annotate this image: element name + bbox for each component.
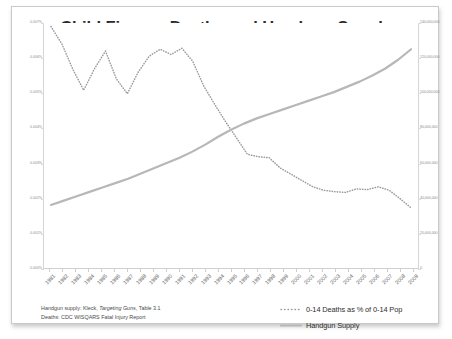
- x-axis-tick: [270, 269, 271, 272]
- left-axis-tick-label: 0.006%: [30, 56, 44, 60]
- right-axis-tick-label: 100,000,000: [418, 91, 439, 95]
- x-axis-tick: [257, 269, 258, 272]
- solid-line-icon: [280, 322, 302, 329]
- x-axis-year-label: 1983: [70, 273, 82, 285]
- x-axis-tick: [101, 269, 102, 272]
- x-axis-year-label: 1986: [109, 273, 121, 285]
- x-axis-year-label: 1993: [199, 273, 211, 285]
- x-axis-tick: [153, 269, 154, 272]
- x-axis-year-label: 1988: [135, 273, 147, 285]
- x-axis-year-label: 2005: [355, 273, 367, 285]
- source-prefix: Handgun supply: Kleck,: [41, 305, 99, 311]
- legend-item[interactable]: 0-14 Deaths as % of 0-14 Pop: [280, 302, 440, 316]
- right-axis-tick-label: 60,000,000: [418, 162, 438, 166]
- x-axis-year-label: 1987: [122, 273, 134, 285]
- x-axis-year-label: 2009: [407, 273, 419, 285]
- x-axis-tick: [127, 269, 128, 272]
- x-axis-year-label: 2008: [394, 273, 406, 285]
- legend-label: 0-14 Deaths as % of 0-14 Pop: [306, 305, 402, 314]
- x-axis-tick: [335, 269, 336, 272]
- x-axis-year-label: 2006: [368, 273, 380, 285]
- x-axis-tick: [88, 269, 89, 272]
- x-axis-tick: [348, 269, 349, 272]
- x-axis-tick: [166, 269, 167, 272]
- x-axis-tick: [296, 269, 297, 272]
- x-axis-tick: [283, 269, 284, 272]
- series-line: [51, 49, 411, 205]
- x-axis-tick: [231, 269, 232, 272]
- source-line-handgun-supply: Handgun supply: Kleck, Targeting Guns, T…: [41, 304, 161, 313]
- right-axis-tick-label: 80,000,000: [418, 127, 438, 131]
- x-axis-year-label: 1991: [173, 273, 185, 285]
- x-axis-year-label: 1985: [96, 273, 108, 285]
- source-notes: Handgun supply: Kleck, Targeting Guns, T…: [41, 304, 161, 322]
- left-axis-tick-label: 0.004%: [30, 127, 44, 131]
- x-axis-tick: [361, 269, 362, 272]
- x-axis-year-label: 2000: [290, 273, 302, 285]
- x-axis-tick: [62, 269, 63, 272]
- source-line-deaths: Deaths: CDC WISQARS Fatal Injury Report: [41, 313, 161, 322]
- left-axis-tick-label: 0.003%: [30, 162, 44, 166]
- x-axis-year-label: 1995: [225, 273, 237, 285]
- right-axis-tick-label: 20,000,000: [418, 232, 438, 236]
- x-axis-year-label: 1990: [160, 273, 172, 285]
- x-axis-tick: [244, 269, 245, 272]
- x-axis-year-label: 1999: [277, 273, 289, 285]
- x-axis-year-label: 1992: [186, 273, 198, 285]
- x-axis: 1981198219831984198519861987198819891990…: [43, 269, 419, 303]
- dotted-line-icon: [280, 306, 302, 313]
- chart-page: Child Firearm Deaths and Handgun Supply …: [0, 0, 452, 339]
- x-axis-year-label: 1994: [212, 273, 224, 285]
- right-axis-tick-label: 140,000,000: [418, 21, 439, 25]
- legend-item[interactable]: Handgun Supply: [280, 318, 440, 332]
- x-axis-year-label: 2007: [381, 273, 393, 285]
- source-suffix: , Table 3.1: [136, 305, 161, 311]
- x-axis-tick: [49, 269, 50, 272]
- left-axis-tick-label: 0.000%: [30, 267, 44, 271]
- x-axis-tick: [309, 269, 310, 272]
- x-axis-tick: [400, 269, 401, 272]
- x-axis-year-label: 2001: [303, 273, 315, 285]
- x-axis-tick: [413, 269, 414, 272]
- x-axis-year-label: 1984: [83, 273, 95, 285]
- x-axis-tick: [322, 269, 323, 272]
- x-axis-year-label: 1981: [44, 273, 56, 285]
- x-axis-tick: [192, 269, 193, 272]
- source-book-title: Targeting Guns: [99, 305, 136, 311]
- x-axis-tick: [114, 269, 115, 272]
- x-axis-year-label: 1996: [238, 273, 250, 285]
- legend-label: Handgun Supply: [306, 321, 359, 330]
- chart-legend: 0-14 Deaths as % of 0-14 PopHandgun Supp…: [280, 302, 440, 334]
- x-axis-tick: [387, 269, 388, 272]
- x-axis-tick: [179, 269, 180, 272]
- x-axis-year-label: 1997: [251, 273, 263, 285]
- right-axis-tick-label: 120,000,000: [418, 56, 439, 60]
- chart-frame: Child Firearm Deaths and Handgun Supply …: [11, 6, 439, 324]
- right-axis-tick-label: 40,000,000: [418, 197, 438, 201]
- x-axis-year-label: 2004: [342, 273, 354, 285]
- x-axis-tick: [218, 269, 219, 272]
- x-axis-year-label: 1982: [57, 273, 69, 285]
- left-axis-tick-label: 0.007%: [30, 21, 44, 25]
- left-axis-tick-label: 0.002%: [30, 197, 44, 201]
- x-axis-year-label: 2003: [329, 273, 341, 285]
- plot-area: 0.007%0.006%0.005%0.004%0.003%0.002%0.00…: [43, 23, 419, 269]
- series-line: [51, 26, 411, 207]
- series-lines: [44, 23, 418, 268]
- left-axis-tick-label: 0.001%: [30, 232, 44, 236]
- x-axis-tick: [205, 269, 206, 272]
- x-axis-year-label: 1989: [148, 273, 160, 285]
- x-axis-year-label: 1998: [264, 273, 276, 285]
- x-axis-tick: [75, 269, 76, 272]
- x-axis-tick: [374, 269, 375, 272]
- x-axis-year-label: 2002: [316, 273, 328, 285]
- left-axis-tick-label: 0.005%: [30, 91, 44, 95]
- x-axis-tick: [140, 269, 141, 272]
